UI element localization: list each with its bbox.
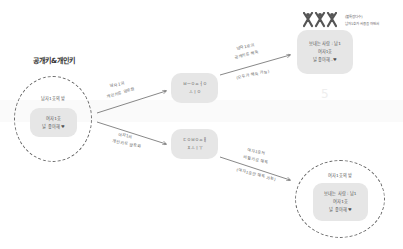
- people-group-icon: [303, 12, 337, 28]
- public-message-box: 보내는 사람 : 남1 여자1호 널 좋아해..♥: [297, 30, 353, 74]
- sender-message-recipient: 여자1호: [46, 115, 61, 123]
- cipher-box-top: ㅂㅡㅇㅆㅓㅇ ㅗㅣㅇ: [171, 73, 218, 103]
- receiver-message-recipient: 여자1호: [333, 198, 348, 206]
- cipher-bottom-line2: ㅊㅗㅣㅜ: [187, 144, 203, 152]
- cipher-box-bottom: ㄷㅇㅂㅇㅆㅐ ㅊㅗㅣㅜ: [171, 129, 218, 159]
- sender-message-box: 여자1호 널 좋아해 ♥: [30, 108, 77, 137]
- sender-message-body: 널 좋아해 ♥: [42, 123, 64, 131]
- cipher-bottom-line1: ㄷㅇㅂㅇㅆㅐ: [183, 136, 207, 144]
- receiver-message-box: 보내는 사람 : 남1 여자1호 널 좋아해 ♥: [313, 183, 368, 221]
- public-caption-line2: 남자1호가 사용을 하면서: [345, 21, 379, 27]
- public-message-body: 널 좋아해..♥: [313, 56, 337, 64]
- receiver-room-heading: 여자1호의 방: [295, 172, 385, 180]
- watermark-number: 5: [321, 87, 329, 101]
- person-icon: [316, 13, 324, 26]
- cipher-top-line2: ㅗㅣㅇ: [189, 88, 201, 96]
- person-icon: [328, 13, 336, 26]
- public-message-recipient: 여자1호: [318, 48, 333, 56]
- person-icon: [304, 13, 312, 26]
- public-message-sender: 보내는 사람 : 남1: [309, 40, 341, 48]
- public-caption-line1: (불특정다수): [345, 14, 363, 20]
- receiver-message-body: 널 좋아해 ♥: [329, 206, 351, 214]
- cipher-top-line1: ㅂㅡㅇㅆㅓㅇ: [183, 80, 207, 88]
- receiver-message-sender: 보내는 사람 : 남1: [324, 190, 356, 198]
- sender-room-heading: 남자1호의 방: [14, 95, 92, 103]
